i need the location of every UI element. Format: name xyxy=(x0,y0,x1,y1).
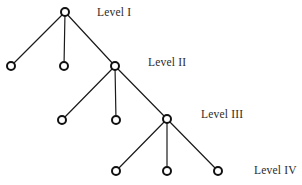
hierarchy-tree-diagram: Level ILevel IILevel IIILevel IV xyxy=(0,0,302,185)
tree-edge xyxy=(65,12,115,66)
label-level-1: Level I xyxy=(97,6,131,18)
label-level-4: Level IV xyxy=(254,164,297,176)
tree-node xyxy=(163,115,171,123)
tree-node xyxy=(214,167,222,175)
tree-node xyxy=(61,8,69,16)
tree-node xyxy=(163,167,171,175)
tree-edge xyxy=(115,66,116,120)
tree-edge xyxy=(167,119,218,171)
tree-node xyxy=(111,62,119,70)
tree-node xyxy=(60,62,68,70)
tree-edge xyxy=(116,119,167,171)
node-layer xyxy=(7,8,222,175)
tree-edge xyxy=(62,66,115,120)
tree-node xyxy=(58,116,66,124)
tree-graph-canvas xyxy=(0,0,302,185)
tree-node xyxy=(112,167,120,175)
edge-layer xyxy=(11,12,218,171)
tree-edge xyxy=(64,12,65,66)
tree-node xyxy=(7,62,15,70)
label-level-2: Level II xyxy=(148,56,186,68)
label-level-3: Level III xyxy=(201,108,243,120)
tree-node xyxy=(112,116,120,124)
tree-edge xyxy=(11,12,65,66)
tree-edge xyxy=(115,66,167,119)
